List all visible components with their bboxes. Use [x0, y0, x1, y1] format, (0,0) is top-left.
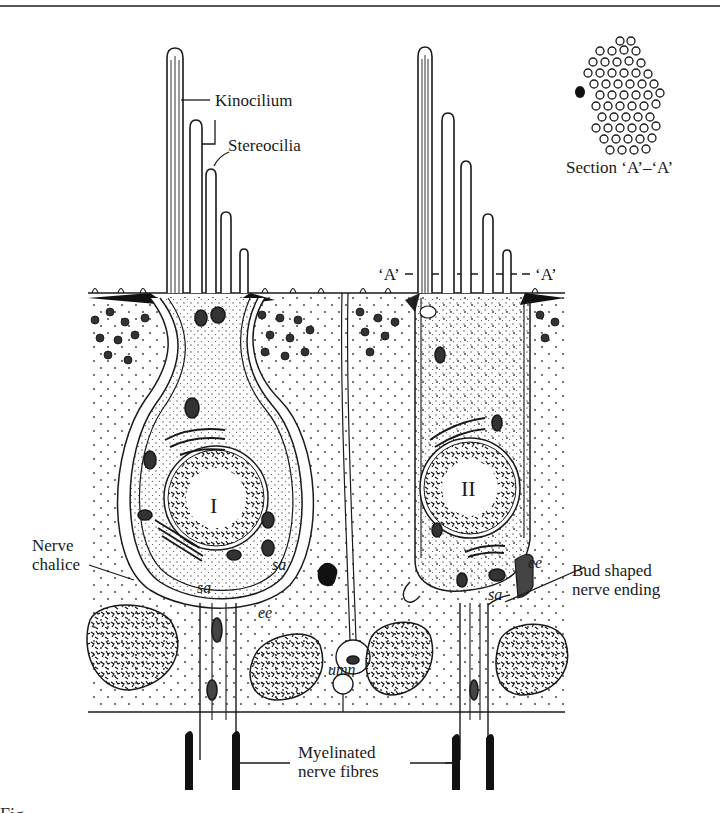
- cell-type-1-label: I: [210, 496, 217, 515]
- type-1-hair-bundle: [167, 48, 248, 293]
- type-2-hair-bundle: [418, 47, 511, 293]
- nerve-chalice-label-line2: chalice: [32, 555, 80, 574]
- figure-caption-text: Fig.: [0, 806, 720, 813]
- synaptic-area-label-3: sa: [488, 585, 502, 604]
- bud-ending-label-line1: Bud shaped: [572, 561, 652, 580]
- figure-caption-cropped: Fig.: [0, 806, 720, 813]
- stereocilia-label: Stereocilia: [228, 136, 301, 155]
- kinocilium-label: Kinocilium: [215, 91, 292, 110]
- myelinated-label-line2: nerve fibres: [298, 762, 379, 781]
- unmyelinated-nerve-label: umn: [328, 660, 356, 679]
- myelinated-label-line1: Myelinated: [298, 743, 375, 762]
- cell-type-2-label: II: [461, 479, 476, 498]
- efferent-ending-label-1: ee: [258, 603, 272, 622]
- synaptic-area-label-1: sa: [197, 578, 211, 597]
- type-2-hair-cell: [415, 298, 533, 598]
- section-title: Section ‘A’–‘A’: [566, 158, 673, 177]
- hair-cell-diagram: [0, 0, 720, 813]
- nerve-chalice-label-line1: Nerve: [32, 536, 74, 555]
- section-marker-left: ‘A’: [378, 265, 400, 284]
- section-marker-right: ‘A’: [535, 265, 557, 284]
- bud-ending-label-line2: nerve ending: [572, 580, 660, 599]
- section-a-a-cluster: [575, 37, 664, 154]
- efferent-ending-label-2: ee: [528, 553, 542, 572]
- synaptic-area-label-2: sa: [272, 555, 286, 574]
